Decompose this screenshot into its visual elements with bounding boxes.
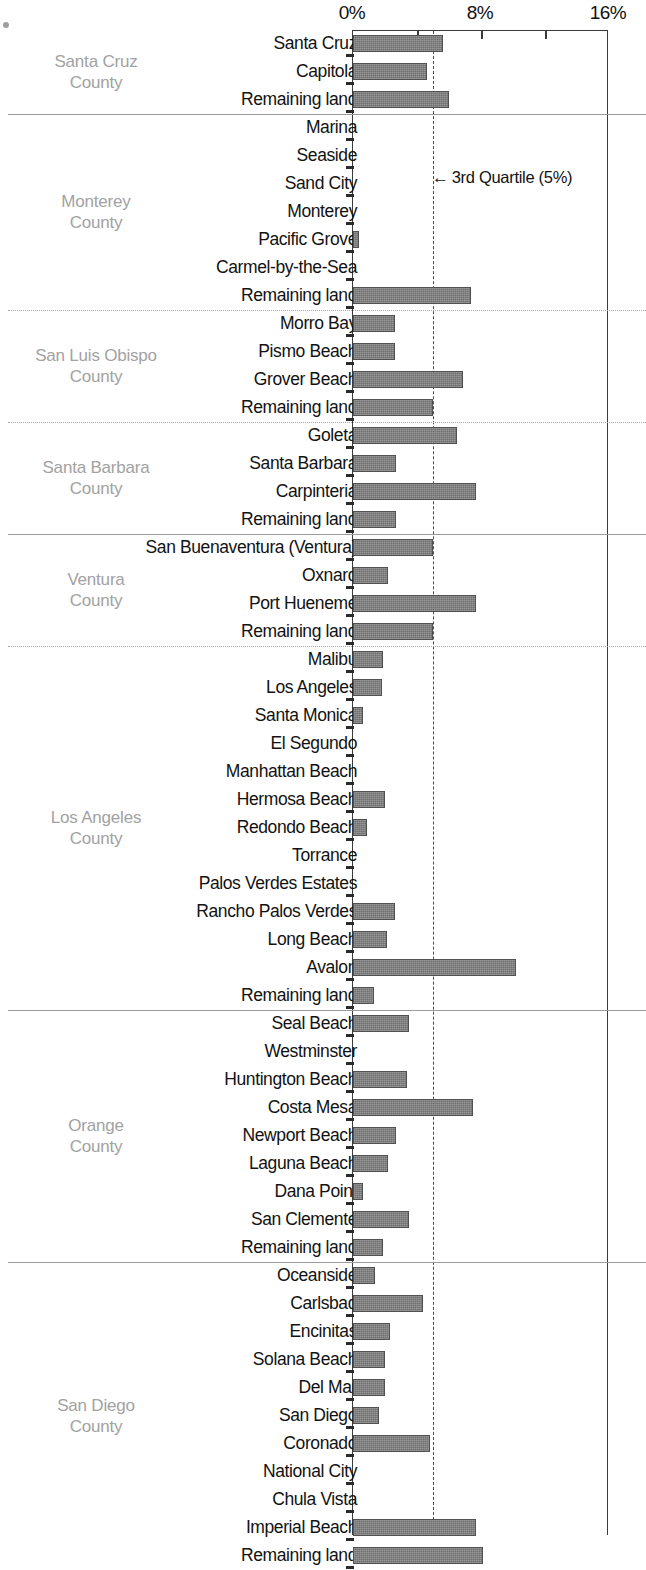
chart-row: Huntington Beach	[0, 1066, 646, 1094]
chart-row: Long Beach	[0, 926, 646, 954]
bar	[353, 1547, 483, 1564]
category-label: Imperial Beach	[246, 1514, 357, 1542]
category-label: Remaining land	[241, 506, 357, 534]
bar	[353, 567, 388, 584]
county-label-line: County	[8, 1416, 184, 1437]
y-axis-tick	[346, 1454, 354, 1457]
y-axis-tick	[346, 390, 354, 393]
county-label: San Luis ObispoCounty	[8, 345, 184, 387]
y-axis-tick	[346, 250, 354, 253]
y-axis-tick	[346, 810, 354, 813]
category-label: Pismo Beach	[258, 338, 357, 366]
y-axis-tick	[346, 586, 354, 589]
county-label: VenturaCounty	[8, 569, 184, 611]
category-label: Remaining land	[241, 394, 357, 422]
category-label: Pacific Grove	[258, 226, 357, 254]
bar	[353, 959, 516, 976]
y-axis-tick	[346, 1258, 354, 1261]
x-axis-tick-label: 16%	[590, 2, 627, 24]
category-label: Los Angeles	[266, 674, 357, 702]
bar	[353, 231, 359, 248]
county-separator	[8, 534, 646, 535]
bar	[353, 1099, 473, 1116]
y-axis-tick	[346, 838, 354, 841]
y-axis-tick	[346, 1146, 354, 1149]
chart-row: Marina	[0, 114, 646, 142]
y-axis-tick	[346, 474, 354, 477]
category-label: Carmel-by-the-Sea	[216, 254, 357, 282]
bar	[353, 1295, 423, 1312]
category-label: San Clemente	[251, 1206, 357, 1234]
category-label: Palos Verdes Estates	[199, 870, 357, 898]
county-label-line: County	[8, 1136, 184, 1157]
county-label: Santa BarbaraCounty	[8, 457, 184, 499]
bar	[353, 1267, 375, 1284]
y-axis-tick	[346, 418, 354, 421]
page-artifact-mark	[3, 22, 9, 28]
bar	[353, 791, 385, 808]
bar	[353, 35, 443, 52]
bar	[353, 595, 476, 612]
chart-row: Morro Bay	[0, 310, 646, 338]
chart-row: Remaining land	[0, 282, 646, 310]
category-label: Hermosa Beach	[237, 786, 357, 814]
category-label: Santa Barbara	[249, 450, 357, 478]
chart-row: Palos Verdes Estates	[0, 870, 646, 898]
county-label-line: San Luis Obispo	[8, 345, 184, 366]
bar	[353, 1127, 396, 1144]
y-axis-tick	[346, 1090, 354, 1093]
category-label: Remaining land	[241, 982, 357, 1010]
y-axis-tick	[346, 82, 354, 85]
y-axis-tick	[346, 1034, 354, 1037]
bar	[353, 1435, 430, 1452]
y-axis-tick	[346, 1482, 354, 1485]
category-label: National City	[263, 1458, 357, 1486]
y-axis-tick	[346, 502, 354, 505]
bar	[353, 427, 457, 444]
y-axis-tick	[346, 894, 354, 897]
y-axis-tick	[346, 922, 354, 925]
chart-row: Malibu	[0, 646, 646, 674]
county-separator	[8, 646, 646, 647]
chart-row: Remaining land	[0, 982, 646, 1010]
y-axis-tick	[346, 362, 354, 365]
chart-row: Westminster	[0, 1038, 646, 1066]
category-label: Santa Monica	[255, 702, 357, 730]
bar	[353, 483, 476, 500]
x-axis-tick-label: 0%	[339, 2, 365, 24]
county-label: San DiegoCounty	[8, 1395, 184, 1437]
county-label: OrangeCounty	[8, 1115, 184, 1157]
category-label: Long Beach	[268, 926, 357, 954]
y-axis-tick	[346, 1398, 354, 1401]
category-label: Port Hueneme	[249, 590, 357, 618]
chart-row: National City	[0, 1458, 646, 1486]
bar	[353, 1155, 388, 1172]
category-label: Westminster	[264, 1038, 357, 1066]
y-axis-tick	[346, 222, 354, 225]
bar	[353, 399, 433, 416]
chart-row: Chula Vista	[0, 1486, 646, 1514]
category-label: Newport Beach	[243, 1122, 357, 1150]
chart-row: Seaside	[0, 142, 646, 170]
bar	[353, 903, 395, 920]
y-axis-tick	[346, 1118, 354, 1121]
category-label: Huntington Beach	[224, 1066, 357, 1094]
y-axis-tick	[346, 54, 354, 57]
y-axis-tick	[346, 614, 354, 617]
chart-row: Avalon	[0, 954, 646, 982]
bar	[353, 651, 383, 668]
category-label: Remaining land	[241, 86, 357, 114]
y-axis-tick	[346, 1510, 354, 1513]
county-separator	[8, 310, 646, 311]
category-label: Remaining land	[241, 618, 357, 646]
county-label-line: Monterey	[8, 191, 184, 212]
y-axis-tick	[346, 110, 354, 113]
y-axis-tick	[346, 1286, 354, 1289]
bar	[353, 455, 396, 472]
category-label: Laguna Beach	[249, 1150, 357, 1178]
bar	[353, 1183, 363, 1200]
y-axis-tick	[346, 642, 354, 645]
bar	[353, 287, 471, 304]
county-label-line: County	[8, 72, 184, 93]
